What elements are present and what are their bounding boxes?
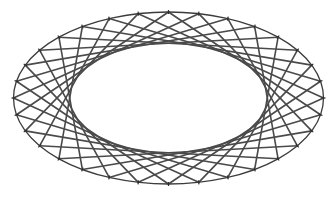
chord-line <box>138 98 323 182</box>
chord-line <box>14 14 199 98</box>
point-tick <box>277 157 279 160</box>
point-tick <box>58 157 60 160</box>
point-tick <box>277 35 279 38</box>
string-art-diagram <box>0 0 334 198</box>
chord-line <box>14 98 199 182</box>
point-tick <box>58 35 60 38</box>
chord-line <box>138 14 323 98</box>
chord-lines <box>14 12 324 184</box>
